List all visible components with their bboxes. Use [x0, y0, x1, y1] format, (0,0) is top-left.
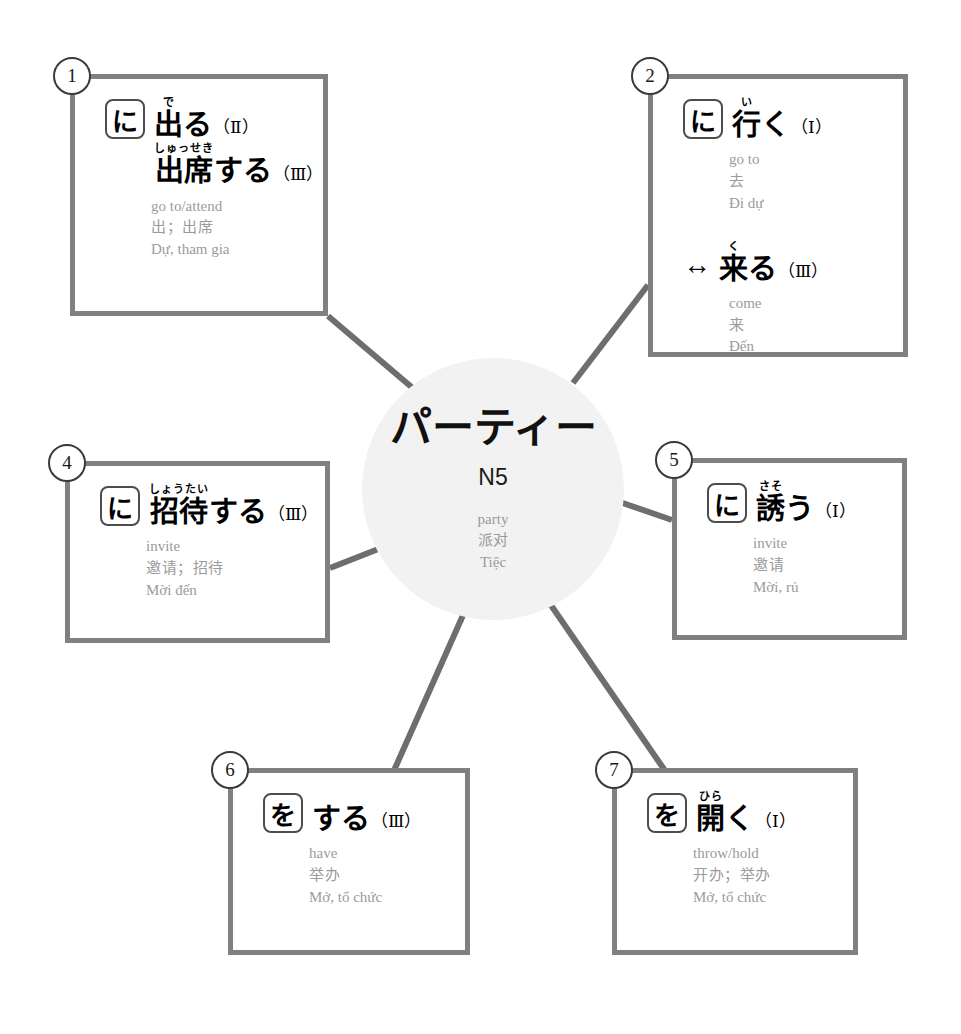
word-block: する （Ⅲ） [312, 791, 421, 835]
ruby-group: ひら 開 [696, 791, 725, 835]
furigana: い [741, 97, 753, 109]
card-number-badge: 4 [48, 444, 86, 482]
okurigana: く [761, 97, 790, 141]
furigana: で [163, 97, 175, 109]
verb-group-tag: （Ⅲ） [778, 257, 828, 285]
gloss-vi: Đi dự [729, 193, 893, 215]
gloss-block: throw/hold 开办；举办 Mở, tổ chức [693, 843, 843, 908]
card-7[interactable]: 7 を ひら 開 く （Ⅰ） throw/hold 开办；举办 Mở, tổ c… [612, 768, 858, 955]
ruby-group: しゅっせき 出席 [154, 143, 214, 187]
gloss-zh: 邀请；招待 [146, 558, 315, 580]
word-block-2: く 来 る （Ⅲ） [719, 241, 828, 285]
card-content: を ひら 開 く （Ⅰ） throw/hold 开办；举办 Mở, tổ chứ… [617, 773, 853, 919]
card-number-badge: 7 [595, 751, 633, 789]
kanji: 招待 [150, 497, 208, 528]
center-gloss: party 派对 Tiệc [478, 509, 509, 573]
ruby-group: さそ 誘 [756, 481, 785, 525]
headword-row: に で 出 る （Ⅱ） [105, 97, 313, 141]
gloss-block: go to 去 Đi dự [729, 149, 893, 214]
word-block-2: しゅっせき 出席 する （Ⅲ） [154, 143, 323, 187]
center-gloss-vi: Tiệc [478, 552, 509, 573]
gloss-block: have 举办 Mở, tổ chức [309, 843, 455, 908]
gloss-en: invite [753, 533, 892, 555]
okurigana: る [183, 97, 212, 141]
gloss-vi: Mời, rủ [753, 577, 892, 599]
center-node: パーティー N5 party 派对 Tiệc [362, 358, 624, 620]
card-number-badge: 1 [53, 57, 91, 95]
kanji: 行 [732, 110, 761, 141]
word-block: ひら 開 く （Ⅰ） [696, 791, 796, 835]
gloss-block: invite 邀请 Mời, rủ [753, 533, 892, 598]
verb-group-tag: （Ⅲ） [273, 160, 323, 188]
connector-card-7 [546, 598, 668, 775]
ruby-group: しょうたい 招待 [149, 484, 209, 528]
particle-box: に [100, 486, 140, 526]
mindmap-canvas: パーティー N5 party 派对 Tiệc 1 に で 出 る （Ⅱ） [0, 0, 961, 1034]
connector-card-2 [573, 285, 648, 383]
center-gloss-en: party [478, 509, 509, 530]
card-number-badge: 5 [655, 441, 693, 479]
gloss-vi: Mở, tổ chức [693, 887, 843, 909]
verb-group-tag: （Ⅰ） [755, 807, 796, 835]
gloss-en: go to/attend [151, 196, 313, 218]
okurigana: する [312, 791, 370, 835]
gloss-en: throw/hold [693, 843, 843, 865]
okurigana: する [214, 143, 272, 187]
card-content: に さそ 誘 う （Ⅰ） invite 邀请 Mời, rủ [677, 463, 902, 609]
kanji: 出席 [155, 156, 213, 187]
furigana: しゅっせき [154, 143, 214, 155]
ruby-group: で 出 [154, 97, 183, 141]
gloss-vi: Mời đến [146, 580, 315, 602]
headword-row: に さそ 誘 う （Ⅰ） [707, 481, 892, 525]
gloss-zh: 出；出席 [151, 217, 313, 239]
card-number-badge: 6 [211, 751, 249, 789]
kanji: 来 [719, 254, 748, 285]
gloss-en: go to [729, 149, 893, 171]
gloss-vi: Mở, tổ chức [309, 887, 455, 909]
ruby-group: く 来 [719, 241, 748, 285]
particle-box: に [707, 483, 747, 523]
card-content: に しょうたい 招待 する （Ⅲ） invite 邀请；招待 Mời đến [70, 466, 325, 612]
furigana: ひら [699, 791, 723, 803]
ruby-group: い 行 [732, 97, 761, 141]
headword-row-2: ↔ く 来 る （Ⅲ） [683, 241, 893, 285]
verb-group-tag: （Ⅰ） [815, 497, 856, 525]
particle-box: を [647, 793, 687, 833]
card-6[interactable]: 6 を する （Ⅲ） have 举办 Mở, tổ chức [228, 768, 470, 955]
gloss-zh: 邀请 [753, 555, 892, 577]
gloss-en: have [309, 843, 455, 865]
headword-row: に しょうたい 招待 する （Ⅲ） [100, 484, 315, 528]
okurigana: く [725, 791, 754, 835]
headword-row: を する （Ⅲ） [263, 791, 455, 835]
center-title: パーティー [390, 406, 597, 450]
gloss-block: go to/attend 出；出席 Dự, tham gia [151, 196, 313, 261]
card-number-badge: 2 [631, 57, 669, 95]
verb-group-tag: （Ⅰ） [791, 113, 832, 141]
headword-row: に い 行 く （Ⅰ） [683, 97, 893, 141]
antonym-arrow-icon: ↔ [683, 251, 710, 279]
gloss-vi: Dự, tham gia [151, 239, 313, 261]
verb-group-tag: （Ⅲ） [268, 500, 318, 528]
okurigana: る [748, 241, 777, 285]
center-level-badge: N5 [478, 464, 507, 491]
card-5[interactable]: 5 に さそ 誘 う （Ⅰ） invite 邀请 Mời, rủ [672, 458, 907, 640]
card-2[interactable]: 2 に い 行 く （Ⅰ） go to 去 Đi dự ↔ [648, 74, 908, 357]
headword-row: を ひら 開 く （Ⅰ） [647, 791, 843, 835]
gloss-en: come [729, 293, 893, 315]
verb-group-tag: （Ⅲ） [371, 807, 421, 835]
gloss-zh: 开办；举办 [693, 865, 843, 887]
card-4[interactable]: 4 に しょうたい 招待 する （Ⅲ） invite 邀请；招待 Mời đến [65, 461, 330, 643]
card-1[interactable]: 1 に で 出 る （Ⅱ） しゅっせき 出席 [70, 74, 328, 316]
center-gloss-zh: 派对 [478, 530, 509, 551]
gloss-zh: 来 [729, 315, 893, 337]
connector-card-1 [328, 316, 415, 390]
verb-group-tag: （Ⅱ） [213, 113, 259, 141]
particle-box: を [263, 793, 303, 833]
furigana: さそ [759, 481, 783, 493]
card-content: を する （Ⅲ） have 举办 Mở, tổ chức [233, 773, 465, 919]
entry-spacer [683, 215, 893, 241]
kanji: 開 [696, 804, 725, 835]
card-content: に い 行 く （Ⅰ） go to 去 Đi dự ↔ [653, 79, 903, 368]
particle-box: に [105, 99, 145, 139]
furigana: しょうたい [149, 484, 209, 496]
